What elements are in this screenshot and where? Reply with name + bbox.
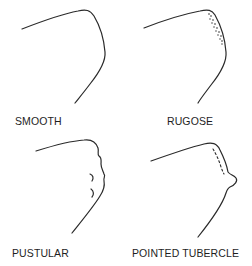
tubercle-dashed-line (213, 149, 224, 174)
smooth-outline (22, 10, 105, 103)
label-rugose: RUGOSE (167, 116, 213, 127)
label-pointed-tubercle: POINTED TUBERCLE (132, 248, 239, 259)
diagram-canvas (0, 0, 252, 266)
rugose-outline (144, 10, 226, 103)
pustule-arc-1 (90, 174, 93, 181)
label-pustular: PUSTULAR (12, 248, 69, 259)
pointed-tubercle-outline (151, 143, 237, 237)
rugose-texture (208, 13, 223, 45)
pustule-arc-2 (91, 189, 93, 197)
pustular-outline (36, 140, 105, 233)
label-smooth: SMOOTH (15, 116, 62, 127)
